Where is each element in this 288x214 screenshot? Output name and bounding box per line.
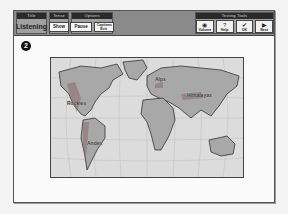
activity-title: Listening [16, 23, 47, 30]
options-group: Options Pause Captions Exit [71, 12, 113, 34]
captions-exit-button[interactable]: Captions Exit [94, 22, 114, 32]
next-button[interactable]: ▶ Next [255, 20, 273, 33]
world-map: Rockies Alps Himalayas Andes [50, 57, 244, 178]
label-rockies: Rockies [67, 100, 86, 106]
toolbar: Title Listening Tense Show Options Pause… [14, 11, 274, 36]
world-map-graphic [51, 58, 243, 177]
testing-tools-group: Testing Tools ◉ Volume ? Help ✔ OK ▶ Nex… [195, 12, 274, 34]
ok-button[interactable]: ✔ OK [236, 20, 254, 33]
show-button[interactable]: Show [49, 22, 69, 32]
label-himalayas: Himalayas [187, 92, 212, 98]
help-button[interactable]: ? Help [216, 20, 234, 33]
volume-button[interactable]: ◉ Volume [196, 20, 214, 33]
label-alps: Alps [155, 76, 166, 82]
app-window: Title Listening Tense Show Options Pause… [13, 10, 275, 203]
tense-group: Tense Show [49, 12, 69, 34]
title-group: Title Listening [16, 12, 47, 34]
step-number-badge: 2 [21, 41, 31, 51]
label-andes: Andes [87, 140, 102, 146]
pause-button[interactable]: Pause [70, 22, 91, 32]
